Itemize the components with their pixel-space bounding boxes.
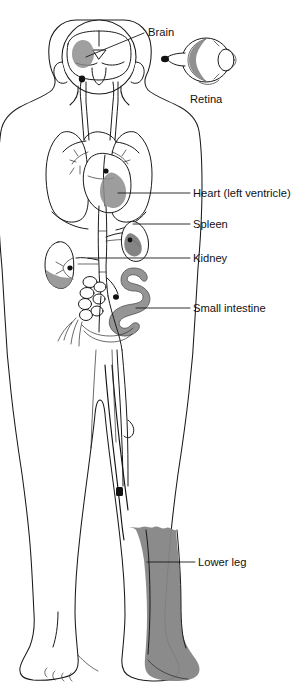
anatomy-figure: Brain Retina Heart (left ventricle) Sple…	[0, 0, 308, 694]
catheter-marker	[116, 487, 123, 496]
left-foot-arch	[78, 655, 98, 671]
intestine-loop-6	[93, 294, 105, 304]
carotid-occlusion-dot	[79, 76, 85, 83]
spleen-occlusion-dot	[128, 238, 133, 243]
intestine-loop-2	[80, 288, 94, 299]
label-spleen: Spleen	[193, 218, 228, 230]
label-retina: Retina	[190, 93, 223, 105]
intestine-loop-5	[94, 282, 106, 292]
eye-diagram-group	[161, 38, 236, 84]
label-heart-left-ventricle: Heart (left ventricle)	[193, 187, 291, 199]
intestine-occlusion-dot	[113, 294, 119, 300]
intestine-loop-3	[79, 299, 92, 310]
label-brain: Brain	[148, 26, 174, 38]
coronary-occlusion-dot	[103, 168, 108, 173]
optic-nerve-occlusion-dot	[161, 56, 169, 62]
label-lower-leg: Lower leg	[198, 556, 247, 568]
lung-left	[46, 132, 88, 222]
brain-infarct-shade	[72, 40, 94, 68]
label-small-intestine: Small intestine	[193, 302, 266, 314]
label-kidney: Kidney	[193, 252, 228, 264]
kidney-occlusion-dot	[67, 266, 72, 271]
anatomy-diagram-svg: Brain Retina Heart (left ventricle) Sple…	[0, 0, 308, 694]
intestine-loop-7	[91, 306, 103, 316]
